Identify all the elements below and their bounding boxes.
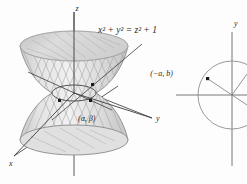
- surface-equation-label: x² + y² = z² + 1: [97, 25, 157, 35]
- x-axis-label: x: [8, 159, 13, 168]
- radius-upper-right: [232, 74, 247, 95]
- hyperboloid-panel: z y x x² + y² = z² + 1 (α, β): [6, 4, 160, 176]
- minus-a-b-point-label: (−a, b): [150, 69, 173, 78]
- marked-point-1: [91, 83, 94, 86]
- radius-lower-right: [232, 95, 247, 105]
- y-axis-label: y: [155, 114, 160, 123]
- marked-point-2: [58, 99, 61, 102]
- z-axis-label: z: [74, 4, 79, 13]
- marked-point-minus-a-b: [206, 77, 209, 80]
- bottom-rim-ellipse: [20, 125, 128, 155]
- radius-to-minus-a-b: [208, 79, 232, 95]
- figure-canvas: z y x x² + y² = z² + 1 (α, β): [0, 0, 247, 184]
- alpha-beta-point-label: (α, β): [78, 114, 96, 123]
- figure-root: z y x x² + y² = z² + 1 (α, β): [0, 0, 247, 184]
- circle-y-axis-label: y: [233, 19, 238, 28]
- circle-panel: y (−a, b): [150, 19, 247, 166]
- marked-point-3: [89, 99, 92, 102]
